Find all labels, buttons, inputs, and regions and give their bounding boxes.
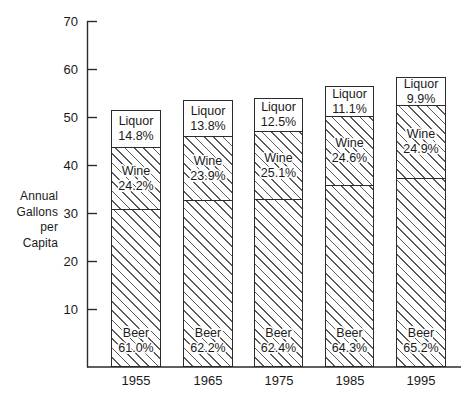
segment-wine-1985: Wine 24.6%	[325, 116, 374, 186]
segment-beer-1995: Beer 65.2%	[396, 178, 446, 367]
segment-label-wine-name: Wine	[407, 127, 435, 142]
segment-liquor-1955: Liquor 14.8%	[111, 110, 161, 148]
segment-liquor-1995: Liquor 9.9%	[396, 77, 446, 106]
y-axis-title: Annual Gallons per Capita	[0, 189, 58, 251]
segment-label-liquor-name: Liquor	[191, 104, 226, 119]
segment-label-beer-pct: 61.0%	[118, 341, 153, 356]
segment-label-wine-name: Wine	[264, 151, 292, 166]
segment-label-wine-pct: 25.1%	[261, 166, 296, 181]
segment-label-beer-pct: 62.4%	[261, 341, 296, 356]
segment-beer-labels-1975: Beer 62.4%	[255, 326, 302, 356]
y-tick-label-50: 50	[52, 111, 78, 124]
segment-label-beer-pct: 65.2%	[403, 341, 438, 356]
segment-beer-labels-1955: Beer 61.0%	[112, 326, 160, 356]
y-tick-label-70: 70	[52, 15, 78, 28]
segment-label-wine-name: Wine	[335, 136, 363, 151]
x-tick-label-1965: 1965	[178, 374, 238, 387]
segment-wine-1995: Wine 24.9%	[396, 105, 446, 179]
bar-1955[interactable]: Liquor 14.8% Wine 24.2% Beer 61.0%	[111, 110, 161, 367]
segment-beer-1985: Beer 64.3%	[325, 185, 374, 367]
segment-label-beer-pct: 62.2%	[190, 341, 225, 356]
x-tick-label-1975: 1975	[249, 374, 309, 387]
y-tick-label-60: 60	[52, 63, 78, 76]
segment-label-liquor-name: Liquor	[404, 77, 439, 92]
x-tick-label-1995: 1995	[391, 374, 451, 387]
segment-wine-1965: Wine 23.9%	[183, 136, 233, 201]
x-tick-label-1985: 1985	[320, 374, 380, 387]
x-tick-label-1955: 1955	[106, 374, 166, 387]
y-tick-label-10: 10	[52, 303, 78, 316]
segment-label-beer-name: Beer	[195, 326, 221, 341]
segment-label-wine-pct: 24.9%	[403, 142, 438, 157]
bar-1985[interactable]: Liquor 11.1% Wine 24.6% Beer 64.3%	[325, 86, 374, 367]
segment-label-liquor-pct: 11.1%	[332, 102, 367, 117]
segment-label-liquor-name: Liquor	[119, 114, 154, 129]
segment-beer-1975: Beer 62.4%	[254, 199, 303, 367]
segment-label-liquor-name: Liquor	[261, 100, 296, 115]
segment-label-beer-name: Beer	[265, 326, 291, 341]
segment-label-wine-pct: 23.9%	[190, 169, 225, 184]
segment-beer-labels-1995: Beer 65.2%	[397, 326, 445, 356]
segment-label-beer-name: Beer	[408, 326, 434, 341]
segment-liquor-1965: Liquor 13.8%	[183, 100, 233, 137]
segment-label-beer-pct: 64.3%	[332, 341, 367, 356]
stacked-bar-chart: Annual Gallons per Capita 70 60 50 40 30…	[0, 0, 466, 399]
segment-beer-labels-1985: Beer 64.3%	[326, 326, 373, 356]
segment-wine-1955: Wine 24.2%	[111, 147, 161, 210]
segment-label-liquor-pct: 9.9%	[407, 92, 436, 107]
segment-label-wine-pct: 24.6%	[332, 151, 367, 166]
bar-1965[interactable]: Liquor 13.8% Wine 23.9% Beer 62.2%	[183, 100, 233, 367]
y-tick-label-30: 30	[52, 207, 78, 220]
bar-1995[interactable]: Liquor 9.9% Wine 24.9% Beer 65.2%	[396, 77, 446, 367]
segment-label-liquor-pct: 13.8%	[190, 119, 225, 134]
segment-label-liquor-pct: 12.5%	[261, 115, 296, 130]
segment-beer-1965: Beer 62.2%	[183, 200, 233, 367]
y-tick-label-40: 40	[52, 159, 78, 172]
segment-label-liquor-name: Liquor	[332, 87, 367, 102]
segment-liquor-1975: Liquor 12.5%	[254, 98, 303, 132]
segment-label-wine-pct: 24.2%	[118, 179, 153, 194]
segment-label-liquor-pct: 14.8%	[118, 129, 153, 144]
y-tick-label-20: 20	[52, 255, 78, 268]
segment-beer-labels-1965: Beer 62.2%	[184, 326, 232, 356]
segment-label-beer-name: Beer	[336, 326, 362, 341]
segment-liquor-1985: Liquor 11.1%	[325, 86, 374, 117]
segment-label-wine-name: Wine	[122, 164, 150, 179]
segment-wine-1975: Wine 25.1%	[254, 131, 303, 200]
bar-1975[interactable]: Liquor 12.5% Wine 25.1% Beer 62.4%	[254, 98, 303, 367]
segment-beer-1955: Beer 61.0%	[111, 209, 161, 367]
segment-label-beer-name: Beer	[123, 326, 149, 341]
segment-label-wine-name: Wine	[194, 154, 222, 169]
